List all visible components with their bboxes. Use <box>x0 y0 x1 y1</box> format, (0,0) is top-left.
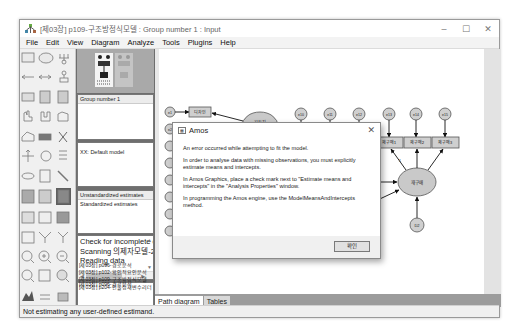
close-button[interactable]: ✕ <box>477 20 499 37</box>
amos-error-dialog: ▦ Amos ✕ An error occurred while attempt… <box>172 122 381 259</box>
file-item[interactable]: [제03장] p204-인물정재변수리더 <box>77 284 154 291</box>
menu-help[interactable]: Help <box>216 38 239 47</box>
undo-icon[interactable] <box>22 317 36 329</box>
dialog-message: An error occurred while attempting to fi… <box>183 145 370 213</box>
svg-text:e12: e12 <box>356 113 362 117</box>
svg-text:1: 1 <box>399 159 401 163</box>
output-diagram-view-icon[interactable] <box>115 53 133 87</box>
file-item[interactable]: [제03장] p109-구조방정식모델 <box>77 276 154 283</box>
log-line: Scanning 의제자모델-2 <box>78 247 153 257</box>
models-pane: XX: Default model <box>77 142 154 187</box>
menu-bar: File Edit View Diagram Analyze Tools Plu… <box>20 37 499 49</box>
indicator-label: 재구매2 <box>410 139 425 145</box>
estimates-pane: Unstandardized estimates Standardized es… <box>77 190 154 234</box>
minimize-button[interactable]: – <box>433 20 455 37</box>
model-item[interactable]: XX: Default model <box>78 148 153 156</box>
title-bar: [제03장] p109-구조방정식모델 : Group number 1 : I… <box>20 20 499 37</box>
file-item[interactable]: [제03장] p102-확인적요인분석 <box>77 269 154 276</box>
standardized-estimates-item[interactable]: Standardized estimates <box>78 200 153 208</box>
menu-diagram[interactable]: Diagram <box>87 38 123 47</box>
scroll-up-icon[interactable]: ▲ <box>147 237 152 243</box>
svg-text:e10: e10 <box>298 113 304 117</box>
menu-tools[interactable]: Tools <box>158 38 184 47</box>
latent-label: 재구매 <box>411 179 423 186</box>
files-list-items: [제03장] p096-경로분석 [제03장] p102-확인적요인분석 [제0… <box>77 262 154 291</box>
svg-text:e15: e15 <box>442 113 448 117</box>
vertical-scrollbar[interactable] <box>484 49 501 294</box>
input-diagram-view-icon[interactable] <box>95 53 113 87</box>
svg-text:e11: e11 <box>327 113 333 117</box>
menu-view[interactable]: View <box>63 38 87 47</box>
amos-engine-hint: In programming the Amos engine, use the … <box>183 195 370 209</box>
menu-file[interactable]: File <box>22 38 42 47</box>
amos-app-icon <box>25 24 36 34</box>
svg-text:e14: e14 <box>413 113 419 117</box>
file-item[interactable]: [제03장] p096-경로분석 <box>77 262 154 269</box>
log-line: Check for incomplete c <box>78 237 153 247</box>
window-title: [제03장] p109-구조방정식모델 : Group number 1 : I… <box>40 23 221 34</box>
svg-text:e13: e13 <box>386 113 392 117</box>
amos-graphics-hint: In Amos Graphics, place a check mark nex… <box>183 176 370 190</box>
error-message: An error occurred while attempting to fi… <box>183 145 370 152</box>
menu-edit[interactable]: Edit <box>42 38 63 47</box>
view-toggle-preview <box>77 49 154 93</box>
groups-pane: Group number 1 <box>77 94 154 140</box>
dialog-title: Amos <box>189 126 208 135</box>
indicator-label: 디자인 <box>194 109 206 115</box>
dialog-footer: 확인 <box>173 236 380 258</box>
ok-button[interactable]: 확인 <box>334 241 370 252</box>
missing-data-message: In order to analyse data with missing ob… <box>183 157 370 171</box>
menu-analyze[interactable]: Analyze <box>124 38 159 47</box>
menu-plugins[interactable]: Plugins <box>184 38 217 47</box>
disturbance-label: D2 <box>414 223 420 228</box>
group-item[interactable]: Group number 1 <box>78 95 153 104</box>
toolbox-icons <box>20 49 76 307</box>
maximize-button[interactable]: ☐ <box>455 20 477 37</box>
dialog-title-bar: ▦ Amos <box>173 123 380 137</box>
indicator-label: 재구매1 <box>382 139 397 145</box>
amos-dialog-icon: ▦ <box>178 127 186 134</box>
indicator-label: 재구매3 <box>438 139 453 145</box>
status-bar: Not estimating any user-defined estimand… <box>20 305 499 317</box>
toolbox <box>20 49 76 307</box>
unstandardized-estimates-item[interactable]: Unstandardized estimates <box>78 191 153 200</box>
svg-text:e1: e1 <box>168 111 172 115</box>
dialog-close-button[interactable]: ✕ <box>367 125 375 135</box>
